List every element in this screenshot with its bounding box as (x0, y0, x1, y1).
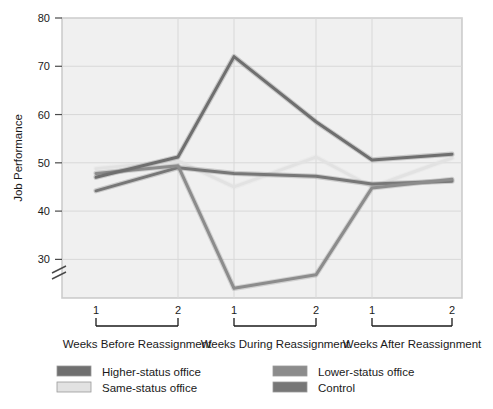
x-group-label-1: Weeks Before Reassignment (63, 338, 213, 350)
legend-swatch-same-status-office (57, 382, 91, 392)
y-tick-label-60: 60 (38, 109, 50, 121)
x-tick-label-g1-2: 2 (175, 304, 181, 316)
y-axis-ticks: 304050607080 (38, 12, 62, 265)
y-tick-label-70: 70 (38, 60, 50, 72)
x-axis-groups: 12Weeks Before Reassignment12Weeks Durin… (63, 304, 482, 350)
x-tick-label-g3-2: 2 (449, 304, 455, 316)
y-tick-label-80: 80 (38, 12, 50, 24)
chart-legend: Higher-status officeLower-status officeS… (57, 366, 414, 394)
x-tick-label-g2-1: 1 (231, 304, 237, 316)
legend-swatch-lower-status-office (273, 366, 307, 376)
x-tick-label-g3-1: 1 (369, 304, 375, 316)
x-group-label-2: Weeks During Reassignment (201, 338, 351, 350)
x-group-label-3: Weeks After Reassignment (343, 338, 482, 350)
x-tick-label-g2-2: 2 (313, 304, 319, 316)
legend-label-same-status-office: Same-status office (102, 382, 197, 394)
y-axis-label: Job Performance (12, 114, 24, 202)
chart-canvas: 304050607080 Job Performance 12Weeks Bef… (0, 0, 493, 409)
legend-label-lower-status-office: Lower-status office (318, 366, 414, 378)
legend-label-higher-status-office: Higher-status office (102, 366, 201, 378)
line-chart-figure: 304050607080 Job Performance 12Weeks Bef… (0, 0, 493, 409)
y-tick-label-50: 50 (38, 157, 50, 169)
legend-swatch-control (273, 382, 307, 392)
x-tick-label-g1-1: 1 (93, 304, 99, 316)
legend-label-control: Control (318, 382, 355, 394)
legend-swatch-higher-status-office (57, 366, 91, 376)
y-tick-label-40: 40 (38, 205, 50, 217)
y-tick-label-30: 30 (38, 253, 50, 265)
